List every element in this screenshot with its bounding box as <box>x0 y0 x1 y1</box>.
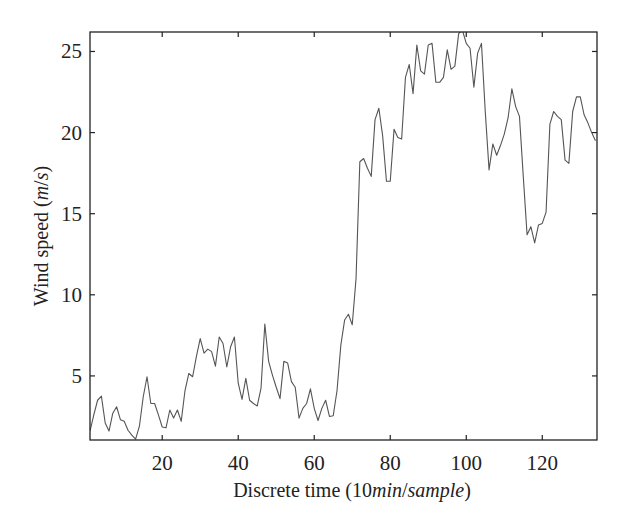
y-tick-label: 15 <box>61 202 82 226</box>
x-tick-label: 120 <box>527 451 559 475</box>
wind-speed-chart: 20406080100120 510152025 Discrete time (… <box>0 0 619 516</box>
y-tick-label: 20 <box>61 121 82 145</box>
plot-area <box>90 32 597 440</box>
x-axis-label: Discrete time (10min/sample) <box>233 479 471 502</box>
chart-canvas: 20406080100120 510152025 Discrete time (… <box>0 0 619 516</box>
y-tick-labels: 510152025 <box>61 39 82 387</box>
x-tick-label: 60 <box>304 451 325 475</box>
y-axis-label: Wind speed (m/s) <box>30 166 53 306</box>
x-tick-labels: 20406080100120 <box>152 451 558 475</box>
y-tick-label: 5 <box>72 364 83 388</box>
x-tick-label: 20 <box>152 451 173 475</box>
y-tick-label: 25 <box>61 39 82 63</box>
x-tick-label: 40 <box>228 451 249 475</box>
y-tick-label: 10 <box>61 283 82 307</box>
x-tick-label: 80 <box>380 451 401 475</box>
x-tick-label: 100 <box>451 451 483 475</box>
